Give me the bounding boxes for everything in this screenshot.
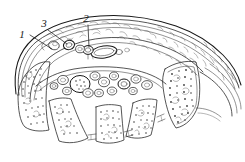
callout-1: 1 [19,28,52,49]
callout-2: 2 [83,12,89,47]
lobule-a [49,98,88,143]
anatomical-line-drawing: Histological cross-section line drawing … [0,0,245,162]
lower-lobule-row [49,61,200,143]
duct-c-d [157,114,165,122]
lobule-b-acini [103,114,117,137]
callout-3: 3 [40,17,67,44]
lobule-left [18,62,50,131]
lobule-b-stipple [100,110,122,140]
duct-b-c [124,130,133,137]
free-cell-cluster [50,72,152,98]
lobule-c [126,99,157,138]
lobule-d [163,61,200,128]
duct-a-b [88,134,96,140]
leader-line-2 [88,25,89,47]
lobule-b [96,105,124,144]
label-3: 3 [40,17,47,29]
lobule-d-acini [172,75,189,120]
lobule-left-acini [25,72,41,117]
label-2: 2 [83,12,89,24]
label-group: 1 3 2 [19,12,89,49]
label-1: 1 [19,28,25,40]
figure-container: Histological cross-section line drawing … [0,0,245,162]
upper-vessel-group [42,39,130,60]
leader-line-1 [30,35,52,49]
central-cavity [36,67,166,98]
lobule-c-stipple [131,105,155,136]
